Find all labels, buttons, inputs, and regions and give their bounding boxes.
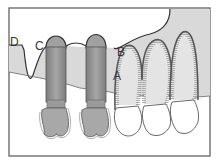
dental-diagram <box>0 0 217 163</box>
label-d: D <box>10 36 19 48</box>
tooth-2 <box>142 39 172 135</box>
label-c: C <box>35 40 44 52</box>
tooth-3 <box>170 32 199 134</box>
label-b: B <box>117 46 125 58</box>
label-a: A <box>113 70 121 82</box>
